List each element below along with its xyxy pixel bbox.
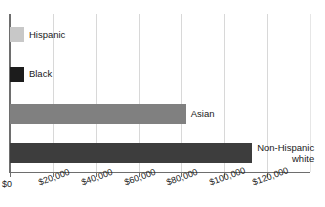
axis-tick xyxy=(267,172,268,177)
plot-area: HispanicBlackAsianNon-Hispanicwhite xyxy=(10,14,310,172)
axis-tick xyxy=(10,172,11,177)
bar-label-line: Asian xyxy=(191,109,215,120)
axis-tick xyxy=(181,172,182,177)
bar-row: Hispanic xyxy=(10,14,310,54)
bar xyxy=(10,104,186,124)
bar-label: Black xyxy=(29,69,52,80)
bar-row: Black xyxy=(10,54,310,94)
bar-label: Non-Hispanicwhite xyxy=(257,143,314,164)
bar-label: Asian xyxy=(191,109,215,120)
axis-tick xyxy=(53,172,54,177)
bar-label-line: Hispanic xyxy=(29,30,65,41)
bar-row: Non-Hispanicwhite xyxy=(10,133,310,173)
x-tick-label: $0 xyxy=(2,179,12,189)
bar xyxy=(10,143,252,163)
bar-label: Hispanic xyxy=(29,30,65,41)
bar-chart: HispanicBlackAsianNon-Hispanicwhite $0$2… xyxy=(0,0,325,207)
category-axis xyxy=(9,172,310,173)
bar xyxy=(10,27,24,42)
bar-label-line: Black xyxy=(29,69,52,80)
axis-tick xyxy=(139,172,140,177)
axis-tick xyxy=(224,172,225,177)
bar-row: Asian xyxy=(10,93,310,133)
bar-label-line: white xyxy=(257,154,314,165)
axis-tick xyxy=(96,172,97,177)
bar xyxy=(10,67,24,82)
